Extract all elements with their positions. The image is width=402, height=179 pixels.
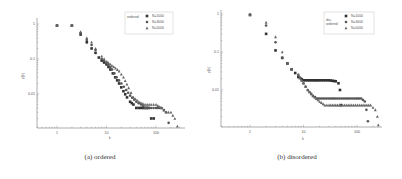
- panel-disordered: 11010010.10.01kp(k)dis-orderedN=1000N=30…: [200, 0, 402, 179]
- x-tick-label: 10: [302, 130, 306, 134]
- y-tick-label: 1: [33, 22, 35, 26]
- legend-entry: N=3000: [351, 20, 363, 24]
- y-tick-label: 0.1: [214, 50, 219, 54]
- legend-entry: N=5000: [152, 26, 164, 30]
- x-axis-label: k: [302, 137, 304, 141]
- legend-entry: N=3000: [152, 20, 164, 24]
- legend: orderedN=1000N=3000N=5000: [125, 12, 173, 34]
- x-axis-label: k: [109, 136, 111, 140]
- series-n-5000: [56, 24, 179, 127]
- x-tick-label: 10: [105, 131, 109, 135]
- y-axis-label: p(k): [207, 67, 211, 73]
- y-tick-label: 0.01: [212, 88, 219, 92]
- legend-entry: N=1000: [152, 14, 164, 18]
- legend-entry: N=1000: [351, 14, 363, 18]
- legend-title-cont: ordered: [326, 22, 338, 26]
- legend-title: ordered: [127, 15, 139, 19]
- series-n-1000: [56, 24, 155, 119]
- y-tick-label: 0.01: [28, 92, 35, 96]
- legend-entry: N=5000: [351, 26, 363, 30]
- x-tick-label: 100: [153, 131, 159, 135]
- y-tick-label: 0.1: [30, 57, 35, 61]
- legend: dis-orderedN=1000N=3000N=5000: [324, 12, 374, 34]
- panel-ordered: 11010010.10.01kp(k)orderedN=1000N=3000N=…: [0, 0, 200, 179]
- caption-ordered: (a) ordered: [60, 153, 140, 161]
- caption-disordered: (b) disordered: [252, 153, 342, 161]
- x-tick-label: 1: [56, 131, 58, 135]
- x-tick-label: 100: [354, 130, 360, 134]
- y-tick-label: 1: [217, 12, 219, 16]
- y-axis-label: p(k): [21, 73, 25, 79]
- x-tick-label: 1: [249, 130, 251, 134]
